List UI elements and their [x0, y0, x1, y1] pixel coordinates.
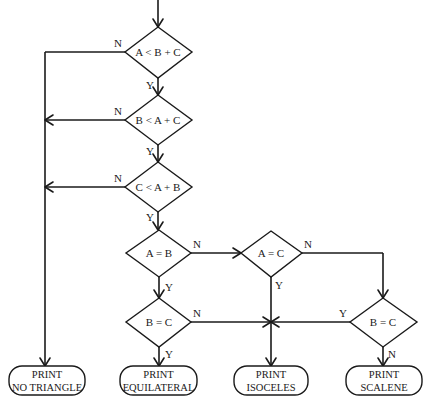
- arrow-d2-to-d3: [153, 145, 163, 162]
- arrow-d1-to-d2: [153, 78, 163, 95]
- arrow-d5-to-junction: [191, 317, 271, 327]
- terminal-isoceles: PRINT ISOCELES: [234, 366, 308, 395]
- terminal-line2: EQUILATERAL: [123, 382, 195, 393]
- decision-c-lt-a-plus-b: C < A + B N Y: [114, 162, 192, 223]
- terminal-line1: PRINT: [143, 369, 174, 380]
- decision-text: C < A + B: [136, 181, 181, 193]
- decision-text: A = B: [146, 247, 172, 259]
- terminal-line1: PRINT: [369, 369, 400, 380]
- yes-label: Y: [165, 348, 173, 360]
- decision-text: A < B + C: [135, 46, 180, 58]
- arrow-d5-to-equilateral: [154, 347, 164, 366]
- decision-b-eq-c-right: B = C Y N: [339, 298, 417, 360]
- arrow-d6-to-d7: [302, 253, 388, 298]
- yes-label: Y: [146, 79, 154, 91]
- decision-b-eq-c-left: B = C N Y: [126, 298, 201, 360]
- flowchart-canvas: A < B + C N Y B < A + C N Y C < A + B N …: [0, 0, 435, 410]
- terminal-line1: PRINT: [256, 369, 287, 380]
- decision-a-eq-c: A = C N Y: [241, 231, 312, 291]
- yes-label: Y: [165, 281, 173, 293]
- no-triangle-trunk: [40, 52, 125, 366]
- yes-label: Y: [146, 211, 154, 223]
- terminal-equilateral: PRINT EQUILATERAL: [120, 366, 197, 395]
- arrow-d4-to-d5: [154, 277, 164, 298]
- no-label: N: [114, 172, 122, 184]
- no-label: N: [304, 238, 312, 250]
- yes-label: Y: [146, 145, 154, 157]
- no-label: N: [193, 307, 201, 319]
- arrow-d3-to-d4: [153, 212, 163, 230]
- decision-a-lt-b-plus-c: A < B + C N Y: [114, 27, 192, 91]
- decision-text: B < A + C: [136, 114, 181, 126]
- terminal-line2: NO TRIANGLE: [12, 382, 82, 393]
- decision-text: B = C: [146, 316, 172, 328]
- terminal-line2: ISOCELES: [246, 382, 295, 393]
- decision-a-eq-b: A = B N Y: [126, 230, 201, 293]
- no-label: N: [114, 105, 122, 117]
- terminal-line2: SCALENE: [360, 382, 407, 393]
- no-label: N: [193, 238, 201, 250]
- no-label: N: [114, 37, 122, 49]
- terminal-scalene: PRINT SCALENE: [346, 366, 422, 395]
- terminal-no-triangle: PRINT NO TRIANGLE: [9, 366, 85, 395]
- decision-b-lt-a-plus-c: B < A + C N Y: [114, 95, 192, 157]
- no-label: N: [388, 348, 396, 360]
- yes-label: Y: [339, 307, 347, 319]
- arrow-d7-to-scalene: [378, 347, 388, 366]
- entry-arrow: [153, 0, 163, 27]
- decision-text: B = C: [370, 316, 396, 328]
- yes-label: Y: [275, 279, 283, 291]
- terminal-line1: PRINT: [32, 369, 63, 380]
- decision-text: A = C: [258, 247, 284, 259]
